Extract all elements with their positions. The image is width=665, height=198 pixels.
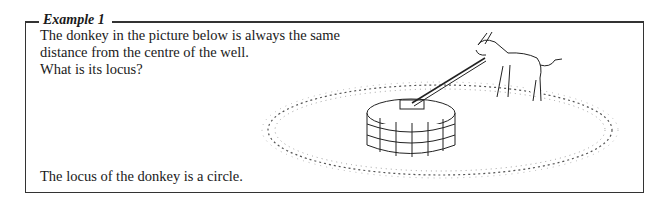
donkey-well-illustration bbox=[0, 0, 665, 198]
pole bbox=[412, 58, 485, 103]
well-icon bbox=[367, 99, 455, 157]
donkey-icon bbox=[476, 32, 562, 101]
